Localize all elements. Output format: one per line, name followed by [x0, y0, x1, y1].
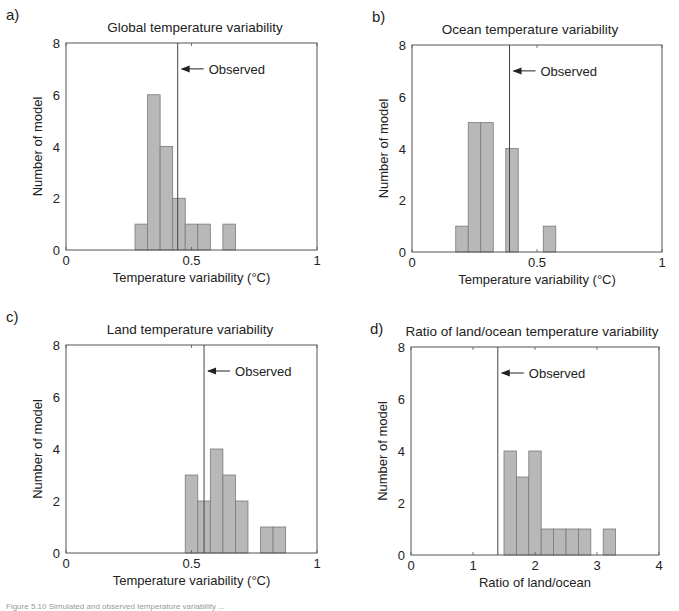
x-axis-label: Ratio of land/ocean — [479, 575, 591, 590]
histogram-bar — [603, 529, 615, 555]
histogram-bar — [185, 475, 198, 553]
histogram-bar — [529, 451, 541, 555]
chart-panel-a: a)Global temperature variability00.51024… — [6, 6, 321, 285]
figure-caption: Figure 5.10 Simulated and observed tempe… — [6, 602, 225, 611]
y-tick-label: 4 — [398, 444, 405, 459]
histogram-bar — [148, 95, 161, 250]
histogram-bar — [504, 451, 516, 555]
histogram-bar — [468, 123, 481, 252]
x-tick-label: 0.5 — [528, 255, 546, 270]
histogram-bar — [235, 501, 248, 553]
x-tick-label: 1 — [658, 255, 665, 270]
y-axis-label: Number of model — [30, 399, 45, 499]
y-tick-label: 4 — [53, 442, 60, 457]
y-tick-label: 8 — [398, 340, 405, 355]
x-tick-label: 0 — [62, 253, 69, 268]
y-axis-label: Number of model — [30, 97, 45, 197]
x-tick-label: 1 — [313, 253, 320, 268]
histogram-bar — [173, 198, 186, 250]
y-tick-label: 8 — [53, 338, 60, 353]
y-tick-label: 6 — [53, 390, 60, 405]
y-axis-label: Number of model — [376, 99, 391, 199]
chart-panel-c: c)Land temperature variability00.5102468… — [6, 308, 321, 588]
histogram-bar — [566, 529, 578, 555]
chart-panel-d: d)Ratio of land/ocean temperature variab… — [370, 320, 663, 590]
histogram-bar — [456, 226, 469, 252]
x-tick-label: 0 — [62, 556, 69, 571]
histogram-bar — [210, 449, 223, 553]
plot-frame — [66, 43, 317, 250]
histogram-bar — [578, 529, 590, 555]
observed-arrow-head-icon — [181, 65, 190, 72]
histogram-bar — [198, 224, 211, 250]
histogram-bar — [481, 123, 494, 252]
histogram-bar — [543, 226, 556, 252]
y-tick-label: 2 — [53, 494, 60, 509]
histogram-bar — [273, 527, 286, 553]
observed-arrow-head-icon — [513, 67, 522, 74]
histogram-bar — [135, 224, 148, 250]
observed-label: Observed — [541, 64, 597, 79]
chart-title: Ocean temperature variability — [442, 22, 619, 37]
y-tick-label: 2 — [399, 193, 406, 208]
observed-label: Observed — [209, 62, 265, 77]
observed-label: Observed — [235, 364, 291, 379]
x-tick-label: 3 — [593, 558, 600, 573]
chart-title: Land temperature variability — [107, 322, 274, 337]
y-tick-label: 0 — [53, 546, 60, 561]
y-tick-label: 2 — [398, 496, 405, 511]
y-tick-label: 4 — [399, 142, 406, 157]
chart-title: Ratio of land/ocean temperature variabil… — [406, 324, 659, 339]
histogram-bar — [160, 147, 173, 251]
chart-panel-b: b)Ocean temperature variability00.510246… — [372, 8, 666, 287]
y-tick-label: 0 — [53, 243, 60, 258]
y-tick-label: 8 — [53, 36, 60, 51]
histogram-bar — [516, 477, 528, 555]
y-tick-label: 0 — [398, 548, 405, 563]
observed-arrow-head-icon — [501, 370, 510, 377]
histogram-bar — [506, 149, 519, 253]
y-tick-label: 0 — [399, 245, 406, 260]
x-axis-label: Temperature variability (°C) — [113, 573, 271, 588]
y-tick-label: 8 — [399, 38, 406, 53]
x-tick-label: 1 — [469, 558, 476, 573]
histogram-bar — [261, 527, 274, 553]
panel-label: b) — [372, 8, 385, 25]
x-tick-label: 4 — [655, 558, 662, 573]
histogram-bar — [541, 529, 553, 555]
x-tick-label: 0.5 — [182, 556, 200, 571]
panel-label: d) — [370, 320, 383, 337]
y-axis-label: Number of model — [375, 401, 390, 501]
y-tick-label: 2 — [53, 191, 60, 206]
x-axis-label: Temperature variability (°C) — [113, 270, 271, 285]
x-tick-label: 0 — [408, 255, 415, 270]
x-tick-label: 0.5 — [182, 253, 200, 268]
plot-frame — [412, 45, 662, 252]
observed-label: Observed — [529, 366, 585, 381]
chart-title: Global temperature variability — [107, 20, 283, 35]
panel-label: a) — [6, 6, 19, 23]
x-axis-label: Temperature variability (°C) — [458, 272, 616, 287]
histogram-bar — [185, 224, 198, 250]
y-tick-label: 6 — [398, 392, 405, 407]
y-tick-label: 4 — [53, 140, 60, 155]
observed-arrow-head-icon — [207, 368, 216, 375]
histogram-bar — [223, 224, 236, 250]
histogram-bar — [554, 529, 566, 555]
panel-label: c) — [6, 308, 19, 325]
x-tick-label: 1 — [313, 556, 320, 571]
x-tick-label: 2 — [531, 558, 538, 573]
y-tick-label: 6 — [399, 90, 406, 105]
histogram-bar — [223, 475, 236, 553]
y-tick-label: 6 — [53, 88, 60, 103]
x-tick-label: 0 — [407, 558, 414, 573]
